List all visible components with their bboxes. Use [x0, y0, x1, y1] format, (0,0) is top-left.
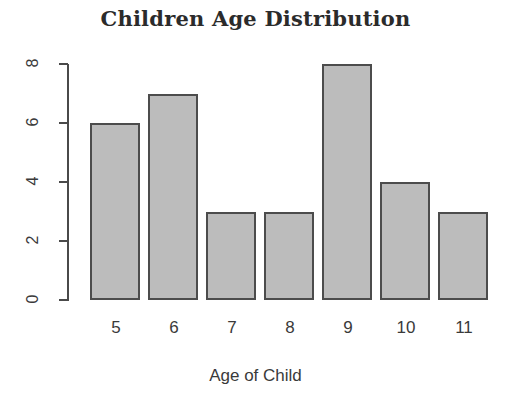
bar	[206, 212, 256, 301]
y-axis-tick-label: 6	[24, 111, 42, 133]
plot-area	[68, 64, 493, 300]
y-axis-tick-label: 8	[24, 52, 42, 74]
y-axis-tick	[59, 240, 68, 242]
bar	[264, 212, 314, 301]
x-axis-tick-label: 8	[264, 318, 316, 338]
bar	[438, 212, 488, 301]
x-axis-tick-label: 9	[322, 318, 374, 338]
y-axis-tick	[59, 122, 68, 124]
y-axis-tick-label: 4	[24, 170, 42, 192]
y-axis-tick	[59, 63, 68, 65]
x-axis-tick-label: 10	[380, 318, 432, 338]
bar	[322, 64, 372, 300]
bar	[90, 123, 140, 300]
y-axis-tick-label: 2	[24, 229, 42, 251]
bar	[380, 182, 430, 300]
x-axis-tick-label: 6	[148, 318, 200, 338]
x-axis-tick-label: 11	[438, 318, 490, 338]
x-axis-tick-label: 5	[90, 318, 142, 338]
x-axis-title: Age of Child	[0, 366, 511, 386]
y-axis-tick-label: 0	[24, 288, 42, 310]
bar-chart: Children Age Distribution 02468 56789101…	[0, 0, 511, 420]
bar	[148, 94, 198, 301]
chart-title: Children Age Distribution	[0, 6, 511, 31]
y-axis-tick	[59, 299, 68, 301]
y-axis-tick	[59, 181, 68, 183]
x-axis-tick-label: 7	[206, 318, 258, 338]
